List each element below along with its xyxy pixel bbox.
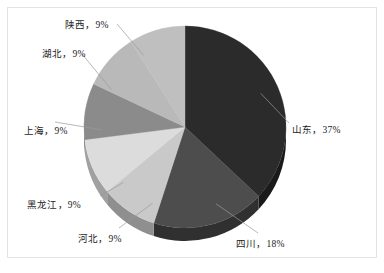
slice-label-shaanxi: 陕西，9% [65,17,109,31]
slice-label-heilongjiang: 黑龙江，9% [27,197,81,211]
pie-slices [84,26,286,228]
slice-label-sichuan: 四川，18% [236,236,285,250]
slice-label-shandong: 山东，37% [292,122,341,136]
slice-label-shanghai: 上海，9% [24,123,68,137]
slice-label-hubei: 湖北，9% [42,46,86,60]
slice-label-hebei: 河北，9% [78,231,122,245]
figure-caption [0,266,384,273]
